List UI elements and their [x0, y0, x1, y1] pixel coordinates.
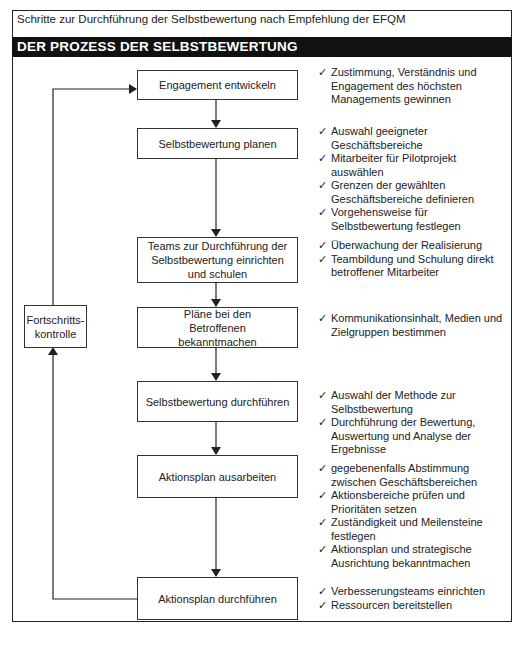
note-item: ✓Mitarbeiter für Pilotprojekt auswählen	[318, 152, 508, 179]
note-item: ✓Aktionsplan und strategische Ausrichtun…	[318, 543, 508, 570]
note-item: ✓Teambildung und Schulung direkt betroff…	[318, 253, 508, 280]
notes-execute-assessment: ✓Auswahl der Methode zur Selbstbewertung…	[318, 389, 508, 457]
note-item: ✓gegebenenfalls Abstimmung zwischen Gesc…	[318, 462, 508, 489]
check-icon: ✓	[318, 543, 327, 557]
notes-action-plan: ✓gegebenenfalls Abstimmung zwischen Gesc…	[318, 462, 508, 570]
note-item: ✓Überwachung der Realisierung	[318, 239, 508, 253]
check-icon: ✓	[318, 239, 327, 253]
check-icon: ✓	[318, 66, 327, 80]
step-implement-action-plan: Aktionsplan durchführen	[137, 577, 298, 620]
note-text: Auswahl der Methode zur Selbstbewertung	[331, 389, 456, 415]
check-icon: ✓	[318, 152, 327, 166]
check-icon: ✓	[318, 585, 327, 599]
note-item: ✓Aktionsbereiche prüfen und Prioritäten …	[318, 489, 508, 516]
step-label: Engagement entwickeln	[159, 78, 276, 92]
step-execute-assessment: Selbstbewertung durchführen	[137, 381, 298, 422]
check-icon: ✓	[318, 179, 327, 193]
note-text: Kommunikationsinhalt, Medien und Zielgru…	[331, 312, 502, 338]
note-item: ✓Vorgehensweise für Selbstbewertung fest…	[318, 206, 508, 233]
check-icon: ✓	[318, 489, 327, 503]
check-icon: ✓	[318, 416, 327, 430]
note-item: ✓Verbesserungsteams einrichten	[318, 585, 508, 599]
step-label: Pläne bei den Betroffenen bekanntmachen	[158, 307, 277, 349]
step-action-plan: Aktionsplan ausarbeiten	[137, 455, 298, 498]
step-label: Aktionsplan durchführen	[158, 592, 277, 606]
note-item: ✓Zuständigkeit und Meilensteine festlege…	[318, 516, 508, 543]
progress-control-box: Fortschritts- kontrolle	[24, 305, 87, 348]
note-item: ✓Grenzen der gewählten Geschäftsbereiche…	[318, 179, 508, 206]
check-icon: ✓	[318, 312, 327, 326]
note-text: Teambildung und Schulung direkt betroffe…	[331, 253, 494, 279]
step-plan: Selbstbewertung planen	[137, 128, 298, 159]
progress-control-line2: kontrolle	[26, 327, 84, 341]
step-label: Aktionsplan ausarbeiten	[159, 470, 276, 484]
notes-communicate: ✓Kommunikationsinhalt, Medien und Zielgr…	[318, 312, 508, 339]
note-item: ✓Zustimmung, Verständnis und Engagement …	[318, 66, 508, 107]
check-icon: ✓	[318, 125, 327, 139]
note-text: Überwachung der Realisierung	[331, 239, 482, 251]
note-item: ✓Auswahl geeigneter Geschäftsbereiche	[318, 125, 508, 152]
notes-implement-action-plan: ✓Verbesserungsteams einrichten ✓Ressourc…	[318, 585, 508, 612]
check-icon: ✓	[318, 253, 327, 267]
note-text: Mitarbeiter für Pilotprojekt auswählen	[331, 152, 456, 178]
step-engagement: Engagement entwickeln	[137, 70, 298, 100]
notes-teams: ✓Überwachung der Realisierung ✓Teambildu…	[318, 239, 508, 280]
note-text: gegebenenfalls Abstimmung zwischen Gesch…	[331, 462, 477, 488]
note-item: ✓Kommunikationsinhalt, Medien und Zielgr…	[318, 312, 508, 339]
note-text: Auswahl geeigneter Geschäftsbereiche	[331, 125, 428, 151]
note-text: Zuständigkeit und Meilensteine festlegen	[331, 516, 483, 542]
notes-plan: ✓Auswahl geeigneter Geschäftsbereiche ✓M…	[318, 125, 508, 233]
note-item: ✓Auswahl der Methode zur Selbstbewertung	[318, 389, 508, 416]
note-text: Zustimmung, Verständnis und Engagement d…	[331, 66, 477, 105]
note-text: Verbesserungsteams einrichten	[331, 585, 485, 597]
step-label: Selbstbewertung planen	[158, 137, 276, 151]
note-item: ✓Durchführung der Bewertung, Auswertung …	[318, 416, 508, 457]
check-icon: ✓	[318, 516, 327, 530]
note-text: Grenzen der gewählten Geschäftsbereiche …	[331, 179, 474, 205]
notes-engagement: ✓Zustimmung, Verständnis und Engagement …	[318, 66, 508, 107]
step-communicate: Pläne bei den Betroffenen bekanntmachen	[137, 307, 298, 348]
progress-control-line1: Fortschritts-	[26, 313, 84, 327]
step-label: Selbstbewertung durchführen	[146, 395, 290, 409]
step-label: Teams zur Durchführung der Selbstbewertu…	[142, 239, 293, 281]
note-text: Vorgehensweise für Selbstbewertung festl…	[331, 206, 461, 232]
step-teams: Teams zur Durchführung der Selbstbewertu…	[137, 237, 298, 283]
note-item: ✓Ressourcen bereitstellen	[318, 599, 508, 613]
check-icon: ✓	[318, 599, 327, 613]
note-text: Aktionsbereiche prüfen und Prioritäten s…	[331, 489, 465, 515]
check-icon: ✓	[318, 462, 327, 476]
check-icon: ✓	[318, 206, 327, 220]
note-text: Ressourcen bereitstellen	[331, 599, 452, 611]
check-icon: ✓	[318, 389, 327, 403]
note-text: Durchführung der Bewertung, Auswertung u…	[331, 416, 475, 455]
note-text: Aktionsplan und strategische Ausrichtung…	[331, 543, 472, 569]
